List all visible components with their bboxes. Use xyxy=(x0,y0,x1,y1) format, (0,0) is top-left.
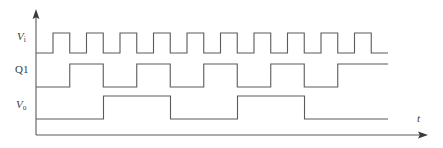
signal-label-q1-main: Q1 xyxy=(15,63,28,75)
timing-diagram-figure: Vi Q1 Vo t xyxy=(0,0,443,148)
waveform-trace-vo xyxy=(36,96,388,119)
waveform-trace-q1 xyxy=(36,64,388,87)
signal-label-vi-main: V xyxy=(17,30,24,42)
x-axis-label-t: t xyxy=(417,113,420,124)
signal-label-vi-sub: i xyxy=(24,35,26,44)
signal-label-q1: Q1 xyxy=(15,64,28,75)
x-axis-label-t-text: t xyxy=(417,112,420,124)
signal-label-vo-main: V xyxy=(16,98,23,110)
signal-label-vo-sub: o xyxy=(23,103,27,112)
waveform-canvas xyxy=(0,0,443,148)
waveform-trace-vi xyxy=(36,33,388,53)
signal-label-vi: Vi xyxy=(17,31,26,43)
signal-label-vo: Vo xyxy=(16,99,26,111)
signal-traces-group xyxy=(36,33,388,119)
